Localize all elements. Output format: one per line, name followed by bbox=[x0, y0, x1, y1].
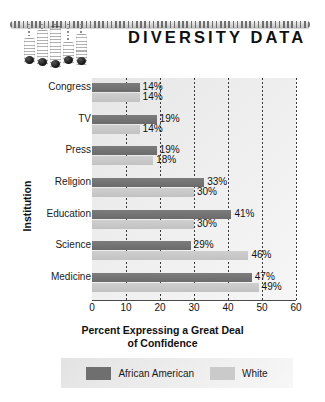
value-label-congress-white: 14% bbox=[143, 91, 163, 102]
plot-area: 14%14%19%14%19%18%33%30%41%30%29%46%47%4… bbox=[92, 78, 296, 300]
bar-medicine-white bbox=[92, 283, 259, 292]
bar-press-white bbox=[92, 156, 153, 165]
y-axis-category-labels: CongressTVPressReligionEducationScienceM… bbox=[27, 78, 91, 300]
x-tick-0: 0 bbox=[89, 302, 95, 313]
x-axis-title-line1: Percent Expressing a Great Deal bbox=[13, 324, 312, 337]
value-label-science-african-american: 29% bbox=[194, 239, 214, 250]
value-label-tv-white: 14% bbox=[143, 123, 163, 134]
slider-knob-icon bbox=[25, 56, 34, 64]
gridline-50 bbox=[262, 78, 263, 300]
value-label-medicine-white: 49% bbox=[262, 281, 282, 292]
x-tick-30: 30 bbox=[188, 302, 199, 313]
bar-science-white bbox=[92, 251, 248, 260]
x-tick-40: 40 bbox=[222, 302, 233, 313]
bar-religion-african-american bbox=[92, 178, 204, 187]
bar-education-white bbox=[92, 220, 194, 229]
diversity-bar-chart: Institution CongressTVPressReligionEduca… bbox=[13, 78, 312, 396]
legend-swatch-white bbox=[210, 367, 235, 380]
legend-label-african-american: African American bbox=[118, 368, 194, 379]
y-tick-tv: TV bbox=[27, 113, 91, 124]
bar-congress-african-american bbox=[92, 83, 140, 92]
x-tick-10: 10 bbox=[120, 302, 131, 313]
slider-bar-5 bbox=[76, 24, 87, 65]
y-tick-religion: Religion bbox=[27, 176, 91, 187]
slider-stem-icon bbox=[67, 24, 69, 42]
x-axis-title: Percent Expressing a Great Deal of Confi… bbox=[13, 324, 312, 349]
legend-item-white: White bbox=[210, 367, 268, 380]
bar-press-african-american bbox=[92, 146, 157, 155]
legend-swatch-african-american bbox=[86, 367, 111, 380]
slider-knob-icon bbox=[77, 57, 86, 65]
bar-medicine-african-american bbox=[92, 273, 252, 282]
legend-item-african-american: African American bbox=[86, 367, 194, 380]
bar-congress-white bbox=[92, 93, 140, 102]
bar-tv-white bbox=[92, 125, 140, 134]
x-axis: 0102030405060 bbox=[92, 300, 296, 316]
slider-knob-icon bbox=[64, 56, 73, 64]
slider-bar-3 bbox=[50, 24, 61, 68]
header-banner: DIVERSITY DATA bbox=[0, 0, 325, 74]
x-tick-20: 20 bbox=[154, 302, 165, 313]
y-tick-press: Press bbox=[27, 144, 91, 155]
page-title: DIVERSITY DATA bbox=[128, 28, 306, 47]
slider-bar-4 bbox=[63, 24, 74, 64]
gridline-40 bbox=[228, 78, 229, 300]
value-label-science-white: 46% bbox=[251, 249, 271, 260]
y-tick-medicine: Medicine bbox=[27, 271, 91, 282]
x-axis-line bbox=[92, 300, 296, 301]
slider-bar-2 bbox=[37, 24, 48, 66]
gridline-30 bbox=[194, 78, 195, 300]
gridline-60 bbox=[296, 78, 297, 300]
value-label-press-white: 18% bbox=[156, 154, 176, 165]
y-tick-congress: Congress bbox=[27, 81, 91, 92]
x-tick-60: 60 bbox=[290, 302, 301, 313]
slider-bar-1 bbox=[24, 24, 35, 64]
bar-science-african-american bbox=[92, 241, 191, 250]
y-tick-science: Science bbox=[27, 239, 91, 250]
bar-religion-white bbox=[92, 188, 194, 197]
y-tick-education: Education bbox=[27, 208, 91, 219]
value-label-religion-white: 30% bbox=[197, 186, 217, 197]
x-tick-50: 50 bbox=[256, 302, 267, 313]
slider-stem-icon bbox=[28, 24, 30, 38]
x-axis-title-line2: of Confidence bbox=[13, 337, 312, 350]
slider-knob-icon bbox=[51, 60, 60, 68]
value-label-education-white: 30% bbox=[197, 218, 217, 229]
slider-stem-icon bbox=[80, 24, 82, 34]
chart-legend: African AmericanWhite bbox=[61, 358, 293, 388]
legend-label-white: White bbox=[242, 368, 268, 379]
value-label-education-african-american: 41% bbox=[234, 208, 254, 219]
slider-knob-icon bbox=[38, 58, 47, 66]
